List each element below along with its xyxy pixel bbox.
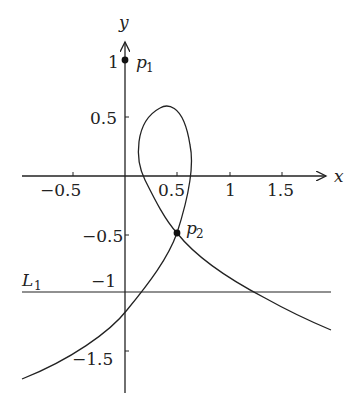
label-p1: p 1	[136, 52, 154, 75]
y-tick-label: 0.5	[90, 108, 117, 128]
svg-text:L: L	[21, 270, 33, 290]
svg-text:1: 1	[146, 61, 154, 75]
y-tick-label: −1.5	[72, 349, 113, 369]
point-p2	[174, 230, 181, 237]
y-tick-label: −1	[91, 271, 116, 291]
x-tick-label: −0.5	[40, 180, 81, 200]
svg-text:1: 1	[34, 279, 42, 293]
label-L1: L 1	[21, 270, 42, 293]
y-tick-label: 1	[108, 52, 119, 72]
x-tick-label: 1	[225, 180, 236, 200]
y-axis-label: y	[118, 12, 129, 32]
x-tick-label: 1.5	[267, 180, 294, 200]
x-axis-label: x	[334, 166, 344, 186]
y-tick-label: −0.5	[82, 226, 123, 246]
curve	[22, 106, 331, 379]
x-tick-label: 0.5	[158, 180, 185, 200]
svg-text:2: 2	[196, 227, 204, 241]
label-p2: p 2	[186, 218, 204, 241]
point-p1	[122, 57, 129, 64]
diagram: y x −0.5 0.5 1 1.5 1 0.5 −0.5 −1 −1.5 p …	[0, 0, 356, 410]
